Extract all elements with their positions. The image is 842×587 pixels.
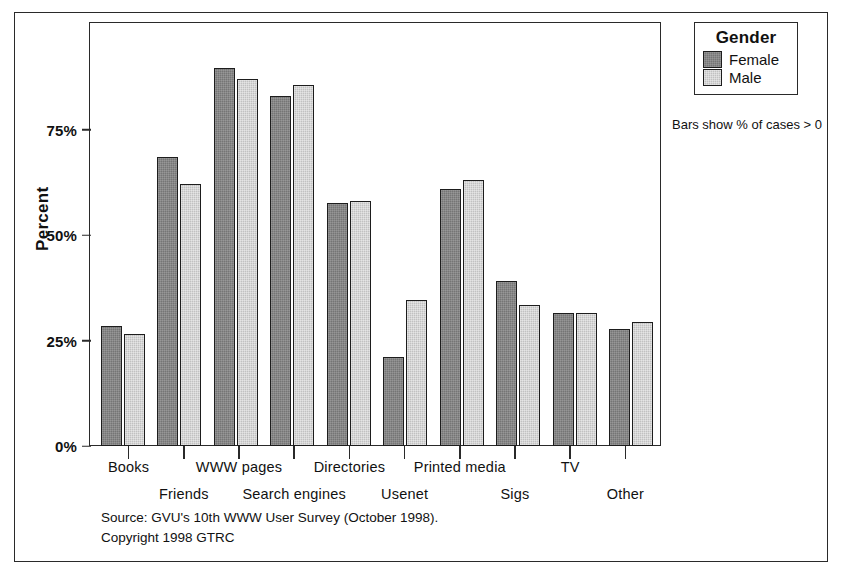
bar-sigs-male[interactable] [519,305,540,446]
x-label-search-engines: Search engines [242,486,346,502]
bar-printed-media-female[interactable] [440,189,461,446]
x-tick-mark [293,446,295,459]
x-tick-mark [514,446,516,459]
bar-group [270,24,314,446]
x-label-usenet: Usenet [381,486,428,502]
bar-sigs-female[interactable] [496,281,517,446]
legend-item-female[interactable]: Female [703,51,789,68]
x-tick-mark [238,446,240,459]
bar-directories-female[interactable] [327,203,348,446]
x-label-books: Books [108,459,149,475]
x-tick-mark [128,446,130,459]
figure-frame: Percent 75%50%25%0% BooksFriendsWWW page… [14,12,828,562]
legend-swatch-male-icon [703,69,722,86]
x-tick-mark [349,446,351,459]
bar-search-engines-male[interactable] [293,85,314,446]
bar-other-female[interactable] [609,329,630,446]
source-line-1: Source: GVU's 10th WWW User Survey (Octo… [101,508,438,528]
bar-group [609,24,653,446]
x-label-tv: TV [561,459,580,475]
legend-title: Gender [703,28,789,48]
legend-item-male[interactable]: Male [703,69,789,86]
x-label-printed-media: Printed media [414,459,506,475]
x-tick-mark [625,446,627,459]
bar-group [383,24,427,446]
x-axis: BooksFriendsWWW pagesSearch enginesDirec… [89,446,661,506]
bar-books-female[interactable] [101,326,122,446]
legend-label-female: Female [729,51,779,68]
bar-printed-media-male[interactable] [463,180,484,446]
bar-group [157,24,201,446]
legend-swatch-female-icon [703,51,722,68]
y-tick-50: 50% [46,227,91,244]
bar-group [327,24,371,446]
bar-friends-male[interactable] [180,184,201,446]
bar-friends-female[interactable] [157,157,178,446]
bar-group [440,24,484,446]
bar-group [553,24,597,446]
source-note: Source: GVU's 10th WWW User Survey (Octo… [101,508,438,548]
x-label-friends: Friends [159,486,209,502]
bar-www-pages-female[interactable] [214,68,235,446]
x-tick-mark [404,446,406,459]
x-tick-mark [183,446,185,459]
y-tick-mark [82,129,91,131]
legend-note: Bars show % of cases > 0 [663,117,831,132]
bar-other-male[interactable] [632,322,653,446]
bar-directories-male[interactable] [350,201,371,446]
bar-groups [91,24,659,446]
legend-label-male: Male [729,69,762,86]
y-tick-25: 25% [46,332,91,349]
bar-group [496,24,540,446]
x-label-other: Other [607,486,644,502]
y-tick-mark [82,234,91,236]
y-tick-0: 0% [55,438,91,455]
y-tick-75: 75% [46,121,91,138]
bar-www-pages-male[interactable] [237,79,258,446]
x-tick-mark [569,446,571,459]
bar-group [101,24,145,446]
bar-search-engines-female[interactable] [270,96,291,446]
x-label-directories: Directories [314,459,386,475]
bar-books-male[interactable] [124,334,145,446]
bar-group [214,24,258,446]
legend: Gender Female Male [694,22,798,95]
bar-tv-female[interactable] [553,313,574,446]
plot-area: 75%50%25%0% [91,24,659,446]
y-tick-mark [82,340,91,342]
x-label-www-pages: WWW pages [196,459,282,475]
bar-tv-male[interactable] [576,313,597,446]
x-tick-mark [459,446,461,459]
bar-usenet-female[interactable] [383,357,404,446]
source-line-2: Copyright 1998 GTRC [101,528,438,548]
bar-usenet-male[interactable] [406,300,427,446]
x-label-sigs: Sigs [500,486,529,502]
